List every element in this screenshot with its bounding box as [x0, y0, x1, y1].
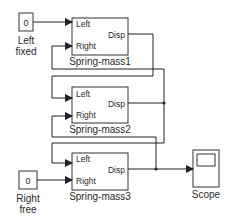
port-label-left: Left	[76, 89, 91, 99]
block-name: Scope	[192, 189, 221, 200]
constant-label: free	[19, 204, 37, 215]
port-label-right: Right	[76, 41, 96, 51]
constant-label: Left	[18, 35, 35, 46]
scope-block[interactable]: Scope	[192, 150, 221, 200]
port-label-left: Left	[76, 19, 91, 29]
constant-label: Right	[16, 193, 40, 204]
block-name: Spring-mass2	[69, 124, 131, 135]
port-label-disp: Disp	[108, 165, 125, 175]
block-name: Spring-mass3	[69, 191, 131, 202]
subsystem-block-spring-mass2[interactable]: Left Right Disp Spring-mass2	[69, 87, 131, 135]
block-name: Spring-mass1	[69, 56, 131, 67]
port-label-disp: Disp	[108, 30, 125, 40]
constant-value: 0	[23, 18, 28, 28]
constant-label: fixed	[15, 46, 36, 57]
constant-block-right-free[interactable]: 0 Right free	[16, 171, 40, 215]
diagram-svg: 0 Left fixed 0 Right free Left Right Dis…	[0, 0, 234, 224]
subsystem-block-spring-mass3[interactable]: Left Right Disp Spring-mass3	[69, 153, 131, 202]
port-label-left: Left	[76, 154, 91, 164]
constant-value: 0	[25, 176, 30, 186]
port-label-disp: Disp	[108, 99, 125, 109]
branch-point	[154, 167, 157, 170]
branch-point	[162, 101, 165, 104]
subsystem-block-spring-mass1[interactable]: Left Right Disp Spring-mass1	[69, 18, 131, 67]
port-label-right: Right	[76, 110, 96, 120]
constant-block-left-fixed[interactable]: 0 Left fixed	[15, 13, 36, 57]
port-label-right: Right	[76, 176, 96, 186]
scope-screen-icon	[197, 154, 215, 166]
block-diagram-canvas: 0 Left fixed 0 Right free Left Right Dis…	[0, 0, 234, 224]
